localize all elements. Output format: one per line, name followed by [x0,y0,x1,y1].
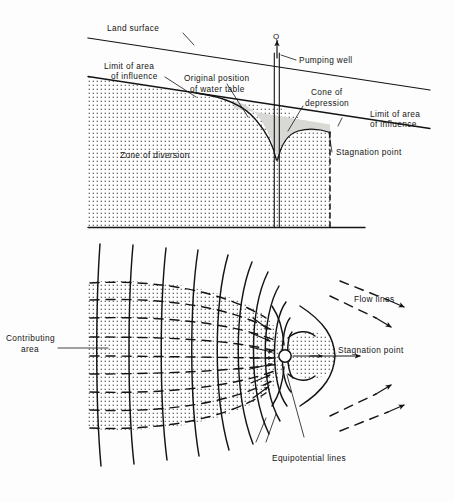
label-contributing-area-line2: area [21,344,39,354]
label-limit-of-area-right-line1: Limit of area [370,109,420,119]
cross-section-group: Land surface Limit of area of influence … [86,23,430,232]
leader-pumping-well [281,55,296,60]
label-land-surface: Land surface [107,23,159,33]
well-symbol-plan [279,350,291,362]
label-limit-of-area-right-line2: of influence [370,119,417,129]
label-stagnation-point-plan: Stagnation point [338,345,404,355]
plan-view-group: Contributing area Flow lines Stagnation … [6,244,404,466]
leader-equipotential-2 [266,414,276,442]
flow-arrow-outward [376,385,391,394]
label-cone-of-depression-line2: depression [305,98,349,108]
label-zone-of-diversion: Zone of diversion [120,150,190,160]
label-original-water-table-line2: of water table [190,84,245,94]
leader-equipotential-1 [256,418,266,442]
leader-land-surface [183,33,194,45]
label-limit-of-area-left-line2: of influence [111,71,158,81]
label-flow-lines: Flow lines [354,294,394,304]
label-cone-of-depression-line1: Cone of [311,87,343,97]
leader-equipotential-3 [287,375,304,437]
flow-line-outward [330,394,376,416]
label-contributing-area-line1: Contributing [6,333,55,343]
label-discharge-q: Q [273,32,280,41]
label-pumping-well: Pumping well [299,55,353,65]
flow-line-outward [340,412,388,431]
label-original-water-table-line1: Original position [184,73,249,83]
leader-limit-right [338,118,342,126]
label-stagnation-point-section: Stagnation point [336,147,402,157]
hydrogeology-figure: Land surface Limit of area of influence … [0,0,454,502]
label-limit-of-area-left-line1: Limit of area [104,61,154,71]
figure-root: Land surface Limit of area of influence … [0,0,454,502]
flow-arrow-outward [376,318,391,327]
flow-arrow-outward [388,405,404,412]
label-equipotential-lines: Equipotential lines [272,453,346,463]
